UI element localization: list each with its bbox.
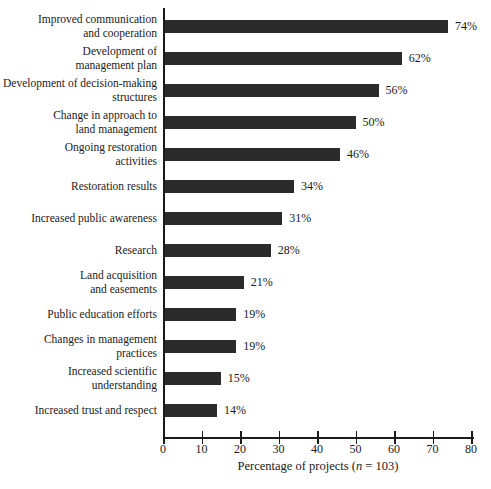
bar-row: Increased trust and respect14% xyxy=(0,394,491,426)
bar-track: 74% xyxy=(163,19,471,34)
bar xyxy=(163,52,402,65)
bar-row: Changes in managementpractices19% xyxy=(0,330,491,362)
value-label: 31% xyxy=(289,211,311,226)
bar-track: 34% xyxy=(163,179,471,194)
value-label: 46% xyxy=(347,147,369,162)
category-label: Increased public awareness xyxy=(0,211,163,225)
bar xyxy=(163,20,448,33)
x-tick-label: 70 xyxy=(427,442,439,457)
bar-row: Increased public awareness31% xyxy=(0,202,491,234)
bar xyxy=(163,372,221,385)
bar-track: 31% xyxy=(163,211,471,226)
y-axis-line xyxy=(163,8,165,438)
category-label: Development of decision-makingstructures xyxy=(0,76,163,104)
bar xyxy=(163,212,282,225)
bar xyxy=(163,148,340,161)
x-tick-label: 10 xyxy=(196,442,208,457)
x-axis-title-suffix: = 103) xyxy=(362,459,398,473)
bar-row: Research28% xyxy=(0,234,491,266)
bar-track: 21% xyxy=(163,275,471,290)
x-tick-label: 40 xyxy=(311,442,323,457)
bar xyxy=(163,244,271,257)
category-label: Increased trust and respect xyxy=(0,403,163,417)
value-label: 19% xyxy=(243,339,265,354)
bar-track: 62% xyxy=(163,51,471,66)
bar-track: 46% xyxy=(163,147,471,162)
value-label: 28% xyxy=(278,243,300,258)
value-label: 14% xyxy=(224,403,246,418)
bar xyxy=(163,276,244,289)
category-label: Changes in managementpractices xyxy=(0,332,163,360)
value-label: 74% xyxy=(455,19,477,34)
x-tick-label: 0 xyxy=(160,442,166,457)
x-tick-label: 30 xyxy=(273,442,285,457)
bar-track: 28% xyxy=(163,243,471,258)
value-label: 62% xyxy=(409,51,431,66)
x-tick-label: 50 xyxy=(350,442,362,457)
bar xyxy=(163,180,294,193)
value-label: 56% xyxy=(386,83,408,98)
x-tick-label: 20 xyxy=(234,442,246,457)
category-label: Research xyxy=(0,243,163,257)
bar-rows: Improved communicationand cooperation74%… xyxy=(0,10,491,426)
bar-track: 14% xyxy=(163,403,471,418)
bar xyxy=(163,404,217,417)
bar-row: Ongoing restorationactivities46% xyxy=(0,138,491,170)
value-label: 21% xyxy=(251,275,273,290)
value-label: 15% xyxy=(228,371,250,386)
value-label: 50% xyxy=(363,115,385,130)
x-tick-label: 80 xyxy=(465,442,477,457)
bar-track: 50% xyxy=(163,115,471,130)
bar-row: Improved communicationand cooperation74% xyxy=(0,10,491,42)
x-axis-line xyxy=(163,437,474,439)
category-label: Change in approach toland management xyxy=(0,108,163,136)
x-tick-labels: 01020304050607080 xyxy=(163,442,474,456)
category-label: Improved communicationand cooperation xyxy=(0,12,163,40)
bar-track: 56% xyxy=(163,83,471,98)
bar-track: 19% xyxy=(163,307,471,322)
value-label: 19% xyxy=(243,307,265,322)
category-label: Ongoing restorationactivities xyxy=(0,140,163,168)
bar-track: 15% xyxy=(163,371,471,386)
category-label: Development ofmanagement plan xyxy=(0,44,163,72)
bar-row: Development of decision-makingstructures… xyxy=(0,74,491,106)
bar-track: 19% xyxy=(163,339,471,354)
bar-row: Land acquisitionand easements21% xyxy=(0,266,491,298)
bar-row: Restoration results34% xyxy=(0,170,491,202)
bar-row: Public education efforts19% xyxy=(0,298,491,330)
x-tick-label: 60 xyxy=(388,442,400,457)
bar-row: Increased scientificunderstanding15% xyxy=(0,362,491,394)
x-axis-title-prefix: Percentage of projects ( xyxy=(238,459,356,473)
bar xyxy=(163,84,379,97)
category-label: Public education efforts xyxy=(0,307,163,321)
bar xyxy=(163,116,356,129)
category-label: Increased scientificunderstanding xyxy=(0,364,163,392)
bar xyxy=(163,308,236,321)
category-label: Land acquisitionand easements xyxy=(0,268,163,296)
bar-row: Development ofmanagement plan62% xyxy=(0,42,491,74)
bar xyxy=(163,340,236,353)
value-label: 34% xyxy=(301,179,323,194)
category-label: Restoration results xyxy=(0,179,163,193)
bar-row: Change in approach toland management50% xyxy=(0,106,491,138)
x-axis-title: Percentage of projects (n = 103) xyxy=(150,459,486,474)
bar-chart: Improved communicationand cooperation74%… xyxy=(0,0,491,489)
